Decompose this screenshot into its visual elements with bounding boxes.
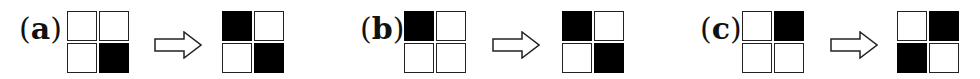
empty-cell-r1c1 — [929, 43, 959, 73]
panel-letter: c — [712, 11, 730, 46]
panel-label: (c) — [700, 9, 742, 49]
empty-cell-r1c0 — [742, 43, 772, 73]
right-arrow-icon — [830, 31, 878, 59]
filled-cell-r0c1 — [774, 11, 804, 41]
empty-cell-r0c0 — [742, 11, 772, 41]
before-grid — [742, 11, 804, 73]
filled-cell-r0c1 — [929, 11, 959, 41]
after-grid — [897, 11, 959, 73]
empty-cell-r0c0 — [897, 11, 927, 41]
panel-c: (c) — [0, 0, 980, 79]
empty-cell-r1c1 — [774, 43, 804, 73]
filled-cell-r1c0 — [897, 43, 927, 73]
